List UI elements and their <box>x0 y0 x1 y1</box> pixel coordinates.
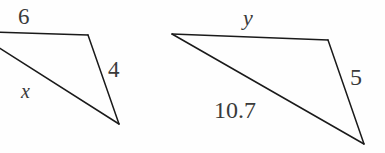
geometry-figure: 6 x 4 y 10.7 5 <box>0 0 385 153</box>
left-triangle-right-side-label: 4 <box>108 58 120 81</box>
left-triangle-diagonal-side-label: x <box>21 81 30 101</box>
left-triangle-shape <box>0 32 119 124</box>
left-triangle-top-side-label: 6 <box>18 5 30 28</box>
right-triangle-diagonal-side-label: 10.7 <box>214 98 256 122</box>
left-triangle-top-side <box>0 32 88 35</box>
left-triangle-diagonal-side <box>0 42 119 124</box>
right-triangle-top-side-label: y <box>243 7 253 29</box>
right-triangle-right-side <box>328 40 364 144</box>
right-triangle-diagonal-side <box>172 34 364 144</box>
triangles-svg <box>0 0 385 153</box>
right-triangle-top-side <box>172 34 328 40</box>
right-triangle-shape <box>172 34 364 144</box>
right-triangle-right-side-label: 5 <box>350 65 362 89</box>
